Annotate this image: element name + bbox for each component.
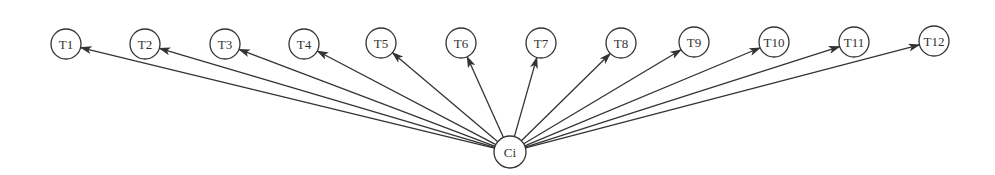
node-label: T12	[924, 34, 945, 49]
edge-ci-to-t11	[525, 47, 839, 148]
node-t4: T4	[289, 29, 319, 59]
node-t12: T12	[919, 26, 949, 56]
node-label: T3	[218, 37, 232, 52]
node-t1: T1	[51, 29, 81, 59]
edge-ci-to-t6	[467, 57, 503, 138]
edge-ci-to-t3	[239, 49, 495, 146]
node-label: T9	[687, 35, 701, 50]
node-label: T7	[534, 36, 549, 51]
nodes: T1T2T3T4T5T6T7T8T9T10T11T12Ci	[51, 26, 949, 168]
node-label: T11	[844, 35, 864, 50]
edge-ci-to-t7	[514, 57, 537, 136]
edge-ci-to-t2	[159, 48, 494, 147]
node-t6: T6	[446, 28, 476, 58]
node-t11: T11	[839, 27, 869, 57]
node-t9: T9	[679, 27, 709, 57]
node-t8: T8	[606, 28, 636, 58]
node-source-ci: Ci	[494, 136, 526, 168]
edge-ci-to-t9	[524, 50, 681, 144]
node-t10: T10	[759, 27, 789, 57]
edges	[81, 45, 920, 148]
node-t3: T3	[210, 29, 240, 59]
diagram-canvas: T1T2T3T4T5T6T7T8T9T10T11T12Ci	[0, 0, 995, 175]
node-label: T2	[138, 37, 152, 52]
node-label: T6	[454, 36, 469, 51]
fan-out-diagram: T1T2T3T4T5T6T7T8T9T10T11T12Ci	[0, 0, 995, 175]
node-t7: T7	[526, 28, 556, 58]
edge-ci-to-t12	[525, 45, 919, 148]
node-t2: T2	[130, 29, 160, 59]
edge-ci-to-t10	[525, 48, 760, 146]
node-label: T5	[374, 36, 388, 51]
edge-ci-to-t5	[392, 53, 497, 142]
node-t5: T5	[366, 28, 396, 58]
edge-ci-to-t1	[81, 48, 495, 149]
node-label: T1	[59, 37, 73, 52]
node-label: Ci	[504, 145, 517, 160]
node-label: T8	[614, 36, 628, 51]
node-label: T10	[764, 35, 785, 50]
node-label: T4	[297, 37, 312, 52]
